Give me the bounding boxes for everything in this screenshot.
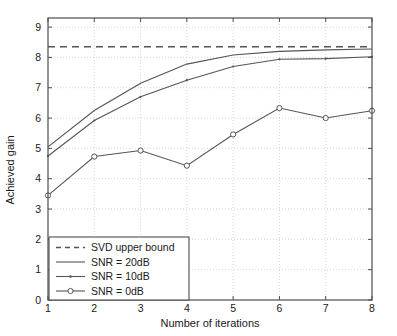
y-axis-label: Achieved gain: [4, 135, 16, 204]
x-tick-label: 6: [277, 302, 283, 314]
y-tick-label: 3: [35, 203, 41, 215]
x-tick-label: 2: [91, 302, 97, 314]
legend-item-label: SNR = 0dB: [91, 285, 144, 297]
x-tick-label: 8: [369, 302, 375, 314]
y-tick-label: 1: [35, 263, 41, 275]
data-point-marker: [184, 163, 189, 168]
data-point-marker: [93, 119, 95, 121]
y-tick-label: 8: [35, 51, 41, 63]
legend-item-label: SVD upper bound: [91, 241, 175, 253]
y-tick-label: 6: [35, 112, 41, 124]
y-tick-label: 4: [35, 172, 41, 184]
data-point-marker: [325, 58, 327, 60]
achieved-gain-line-chart: 12345678 0123456789 Number of iterations…: [0, 0, 397, 336]
chart-figure: 12345678 0123456789 Number of iterations…: [0, 0, 397, 336]
data-point-marker: [186, 79, 188, 81]
data-point-marker: [278, 58, 280, 60]
legend-item-label: SNR = 20dB: [91, 256, 150, 268]
y-tick-label: 0: [35, 294, 41, 306]
y-tick-label: 2: [35, 233, 41, 245]
x-axis-label: Number of iterations: [160, 317, 260, 329]
chart-legend: SVD upper boundSNR = 20dBSNR = 10dBSNR =…: [49, 237, 189, 300]
x-tick-label: 4: [184, 302, 190, 314]
legend-sample-marker: [69, 275, 71, 277]
x-tick-label: 7: [323, 302, 329, 314]
x-tick-label: 1: [45, 302, 51, 314]
legend-sample-marker: [68, 288, 73, 293]
data-point-marker: [138, 148, 143, 153]
y-tick-label: 7: [35, 81, 41, 93]
data-point-marker: [139, 96, 141, 98]
y-tick-label: 9: [35, 21, 41, 33]
x-tick-label: 3: [138, 302, 144, 314]
x-tick-label: 5: [230, 302, 236, 314]
data-point-marker: [277, 105, 282, 110]
y-tick-label: 5: [35, 142, 41, 154]
data-point-marker: [232, 65, 234, 67]
legend-item-label: SNR = 10dB: [91, 270, 150, 282]
data-point-marker: [323, 115, 328, 120]
data-point-marker: [231, 132, 236, 137]
data-point-marker: [92, 154, 97, 159]
